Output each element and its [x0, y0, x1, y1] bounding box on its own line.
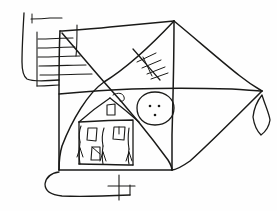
drawing-surface	[0, 0, 277, 211]
face-circle	[137, 92, 174, 125]
house-window	[91, 147, 100, 160]
bottom-flap	[45, 172, 130, 196]
house-window	[113, 127, 125, 140]
face-mouth-dot	[154, 114, 157, 117]
hatch-ladder	[37, 25, 92, 86]
left-flap	[22, 13, 62, 81]
house-window	[87, 128, 97, 141]
house	[77, 93, 139, 165]
stick-figure	[77, 126, 83, 164]
stick-figure	[126, 128, 132, 164]
tick-diagonal	[133, 49, 168, 80]
sketch-canvas	[0, 0, 277, 211]
chimney	[107, 104, 115, 115]
face-eye-right	[158, 105, 161, 108]
stick-figure	[100, 128, 106, 164]
right-diamond	[253, 95, 270, 135]
face-eye-left	[149, 105, 152, 108]
apex-spoke	[172, 21, 174, 170]
